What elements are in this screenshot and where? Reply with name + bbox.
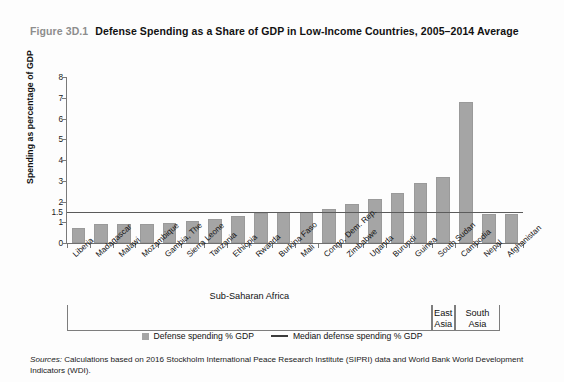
figure-container: Figure 3D.1Defense Spending as a Share o…: [0, 0, 564, 382]
chart-legend: Defense spending % GDP Median defense sp…: [0, 331, 564, 341]
y-axis-tick-label: 1.5: [44, 208, 63, 216]
y-axis-tick-label: 6: [44, 115, 63, 123]
x-axis-tick-mark: [318, 244, 319, 248]
y-axis-tick-label: 2: [44, 198, 63, 206]
legend-label-median-spending: Median defense spending % GDP: [293, 331, 422, 341]
y-axis-tick-mark: [62, 77, 67, 78]
y-axis-tick-mark: [62, 139, 67, 140]
y-axis-tick-label: 1: [44, 218, 63, 226]
bar-burundi: [391, 193, 405, 243]
line-swatch-icon: [271, 335, 288, 337]
bar-afghanistan: [505, 214, 519, 243]
y-axis-tick-label: 7: [44, 94, 63, 102]
sources-text: Calculations based on 2016 Stockholm Int…: [30, 355, 523, 375]
region-label: EastAsia: [432, 308, 455, 329]
region-label: Sub-Saharan Africa: [67, 291, 432, 302]
sources-label: Sources:: [30, 355, 62, 364]
legend-item-median-spending: Median defense spending % GDP: [271, 331, 422, 341]
chart-plot-area: Spending as percentage of GDP 011.523456…: [0, 0, 564, 382]
y-axis-tick-mark: [62, 181, 67, 182]
y-axis-tick-mark: [62, 202, 67, 203]
y-axis-tick-mark: [62, 160, 67, 161]
y-axis-tick-label: 3: [44, 177, 63, 185]
y-axis-tick-mark: [62, 98, 67, 99]
x-axis-tick-mark: [67, 244, 68, 248]
bar-congo-dem-rep: [322, 209, 336, 243]
y-axis-tick-mark: [62, 222, 67, 223]
legend-item-defense-spending: Defense spending % GDP: [142, 331, 254, 341]
legend-label-defense-spending: Defense spending % GDP: [154, 331, 254, 341]
bar-swatch-icon: [142, 333, 149, 340]
sources-note: Sources: Calculations based on 2016 Stoc…: [30, 354, 538, 376]
y-axis-tick-label: 5: [44, 135, 63, 143]
region-bracket: [67, 305, 432, 331]
region-label: SouthAsia: [455, 308, 501, 329]
x-axis-tick-label: Mali: [299, 242, 316, 259]
y-axis-tick-label: 0: [44, 239, 63, 247]
y-axis-tick-label: 8: [44, 73, 63, 81]
y-axis-label: Spending as percentage of GDP: [25, 30, 35, 205]
y-axis-tick-mark: [62, 119, 67, 120]
median-reference-line: [67, 212, 523, 213]
y-axis-tick-label: 4: [44, 156, 63, 164]
bar-south-sudan: [436, 177, 450, 243]
